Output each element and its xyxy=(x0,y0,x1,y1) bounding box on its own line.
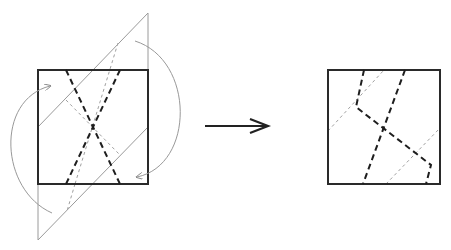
curved-fold-arrow-icon xyxy=(11,86,52,213)
curved-fold-arrow-icon xyxy=(135,41,180,177)
after-fold-figure xyxy=(328,70,440,184)
hidden-crease-line xyxy=(67,184,75,211)
transition-arrow-icon xyxy=(205,119,268,133)
origami-diagram xyxy=(0,0,451,250)
diagram-canvas: Origami fold step: fold corners along di… xyxy=(0,0,451,250)
valley-fold-line xyxy=(363,70,405,184)
before-fold-figure xyxy=(11,13,180,240)
valley-fold-line xyxy=(356,70,431,184)
hidden-crease-line xyxy=(75,43,118,184)
